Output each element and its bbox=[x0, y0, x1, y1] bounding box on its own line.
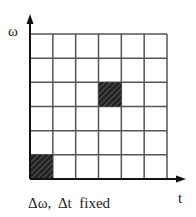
shaded-cell bbox=[99, 82, 122, 106]
shaded-cell bbox=[30, 155, 53, 179]
time-frequency-tiling-diagram: ω t Δω, Δt fixed bbox=[0, 0, 196, 217]
x-axis-arrow-icon bbox=[176, 176, 186, 183]
y-axis-arrow-icon bbox=[27, 14, 34, 24]
caption: Δω, Δt fixed bbox=[28, 195, 111, 211]
x-axis-label: t bbox=[178, 190, 183, 206]
y-axis-label: ω bbox=[8, 23, 18, 39]
